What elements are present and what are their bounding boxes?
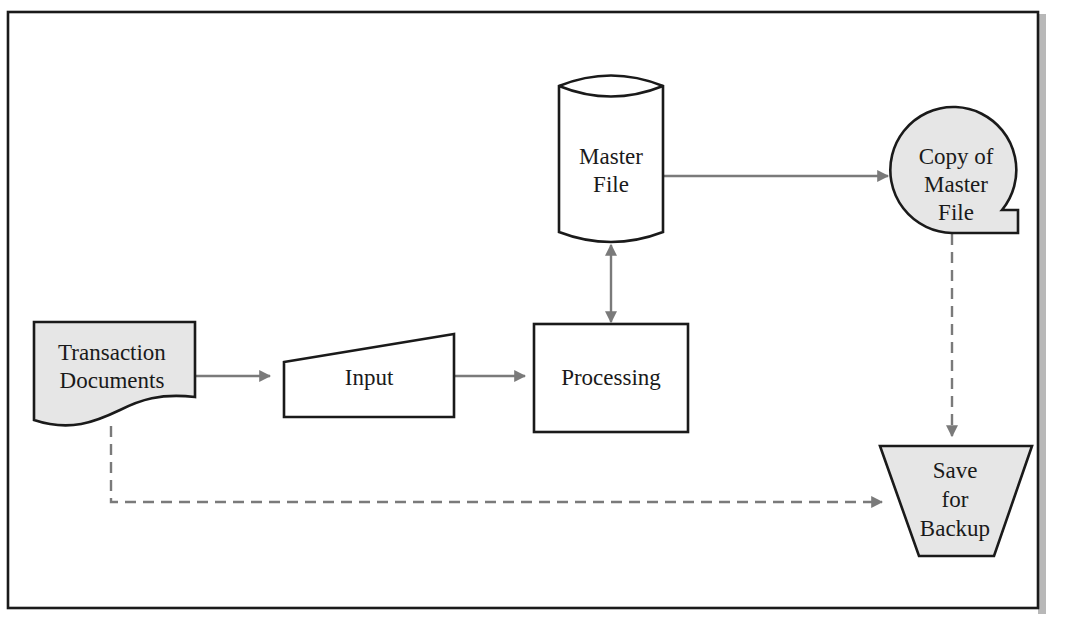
node-label-line: Transaction <box>58 340 166 365</box>
node-label-line: Processing <box>561 365 661 390</box>
flowchart-diagram: Transaction Documents Input Processing M… <box>0 0 1066 618</box>
svg-text:for: for <box>942 487 969 512</box>
diagram-frame <box>8 12 1038 608</box>
node-label-line: for <box>942 487 969 512</box>
node-processing: Processing <box>534 324 688 432</box>
node-label-line: File <box>938 200 974 225</box>
node-label-line: Backup <box>920 516 990 541</box>
svg-text:Processing: Processing <box>561 365 661 390</box>
svg-text:Transaction: Transaction <box>58 340 166 365</box>
svg-text:File: File <box>593 172 629 197</box>
node-label-line: File <box>593 172 629 197</box>
svg-text:Copy of: Copy of <box>919 144 994 169</box>
node-label-line: Input <box>345 365 394 390</box>
node-label-line: Master <box>579 144 643 169</box>
node-copy-of-master-file: Copy of Master File <box>890 107 1018 233</box>
svg-text:Master: Master <box>579 144 643 169</box>
svg-text:Master: Master <box>924 172 988 197</box>
svg-text:Save: Save <box>933 458 978 483</box>
node-label-line: Copy of <box>919 144 994 169</box>
node-label-line: Master <box>924 172 988 197</box>
svg-text:Input: Input <box>345 365 394 390</box>
node-label-line: Save <box>933 458 978 483</box>
node-master-file: Master File <box>559 76 663 243</box>
node-label-line: Documents <box>60 368 165 393</box>
svg-text:File: File <box>938 200 974 225</box>
svg-text:Backup: Backup <box>920 516 990 541</box>
svg-text:Documents: Documents <box>60 368 165 393</box>
